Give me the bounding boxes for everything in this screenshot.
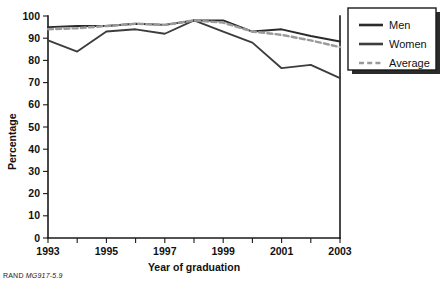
footer-prefix: RAND	[3, 272, 24, 279]
y-tick-label-60: 60	[28, 98, 40, 110]
x-tick-label-2001: 2001	[270, 245, 294, 257]
y-tick-label-70: 70	[28, 76, 40, 88]
line-chart: 0102030405060708090100 19931995199719992…	[0, 0, 444, 290]
y-axis-ticks: 0102030405060708090100	[22, 10, 48, 244]
chart-series-group	[48, 20, 340, 78]
legend-label-women[interactable]: Women	[389, 38, 427, 50]
x-tick-label-2003: 2003	[328, 245, 352, 257]
y-tick-label-80: 80	[28, 54, 40, 66]
figure-source-note: RAND MG917-5.9	[3, 272, 63, 279]
figure-container: 0102030405060708090100 19931995199719992…	[0, 0, 444, 290]
y-axis-title: Percentage	[6, 113, 18, 170]
series-line-women	[48, 20, 340, 78]
x-tick-label-1995: 1995	[95, 245, 119, 257]
chart-legend[interactable]: MenWomenAverage	[348, 8, 440, 74]
x-tick-label-1999: 1999	[212, 245, 236, 257]
legend-label-men[interactable]: Men	[389, 19, 410, 31]
y-tick-label-20: 20	[28, 187, 40, 199]
y-tick-label-90: 90	[28, 32, 40, 44]
y-tick-label-30: 30	[28, 165, 40, 177]
x-axis-title: Year of graduation	[148, 261, 240, 273]
chart-axes	[48, 16, 340, 238]
legend-label-average[interactable]: Average	[389, 57, 430, 69]
x-axis-ticks: 199319951997199920012003	[36, 238, 352, 257]
y-tick-label-10: 10	[28, 209, 40, 221]
y-tick-label-40: 40	[28, 143, 40, 155]
series-line-average	[48, 20, 340, 47]
footer-code: MG917-5.9	[26, 272, 63, 279]
x-tick-label-1997: 1997	[153, 245, 177, 257]
y-tick-label-100: 100	[22, 10, 40, 22]
x-tick-label-1993: 1993	[36, 245, 60, 257]
y-tick-label-50: 50	[28, 121, 40, 133]
y-tick-label-0: 0	[34, 232, 40, 244]
